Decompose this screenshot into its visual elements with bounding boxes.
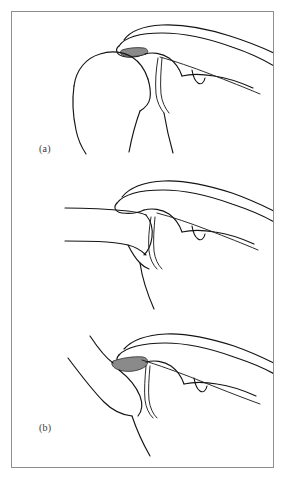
panel-a-drawing <box>12 12 273 167</box>
acromion-anterior-tip <box>115 203 144 213</box>
scapular-spine-notch <box>192 70 205 84</box>
humeral-head-flat-superior <box>65 208 146 215</box>
glenoid-rim-outer <box>149 217 157 269</box>
humerus-shaft <box>140 263 154 309</box>
humerus-shaft <box>132 416 150 456</box>
humeral-head-flat-inferior <box>65 241 146 255</box>
panel-c: (c) <box>12 322 273 469</box>
glenoid-rim-inner <box>154 217 162 269</box>
subacromial-shaded-region <box>121 48 148 57</box>
figure-frame-border: (a) <box>11 11 274 468</box>
scapular-spine-notch <box>194 378 207 392</box>
scapular-spine-upper <box>184 383 256 397</box>
glenoid-rim-inner <box>161 58 169 113</box>
acromion-lower-edge <box>117 190 273 222</box>
panel-c-drawing <box>12 322 273 469</box>
panel-a-label: (a) <box>39 143 51 154</box>
panel-b: (b) <box>12 167 273 322</box>
humeral-head-superior-contour <box>90 336 113 363</box>
scapula-body-edge <box>164 113 173 153</box>
glenoid-rim-inner <box>149 366 157 418</box>
coracoid-process <box>145 53 182 76</box>
acromion-upper-edge <box>122 181 273 213</box>
figure-root: (a) <box>0 0 290 479</box>
scapular-spine-upper <box>182 231 254 245</box>
humeral-head-articular-arc <box>119 370 142 416</box>
humerus-lateral-shaft <box>73 86 86 154</box>
panel-a: (a) <box>12 12 273 167</box>
humeral-neck-medial <box>140 79 150 111</box>
humerus-medial-shaft <box>129 111 140 152</box>
panel-b-drawing <box>12 167 273 322</box>
glenoid-rim-outer <box>156 58 164 113</box>
humeral-head-lateral-contour <box>144 215 152 255</box>
